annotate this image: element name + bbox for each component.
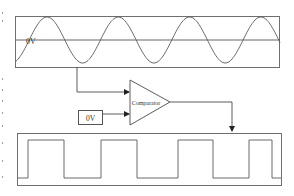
square-wave-panel (18, 134, 282, 186)
reference-source: 0V (79, 111, 130, 125)
comparator-output-wire (170, 102, 232, 131)
square-wave-trace (18, 140, 281, 178)
left-edge-marks (2, 12, 3, 178)
sine-to-comparator-wire (77, 67, 129, 92)
comparator: Comparator (130, 80, 170, 125)
sine-wave-panel: 0V (16, 17, 281, 68)
sine-to-square-diagram: 0V 0V Comparator (0, 0, 294, 196)
reference-label: 0V (86, 114, 96, 123)
zero-volt-label: 0V (26, 37, 36, 46)
comparator-label: Comparator (132, 100, 161, 106)
